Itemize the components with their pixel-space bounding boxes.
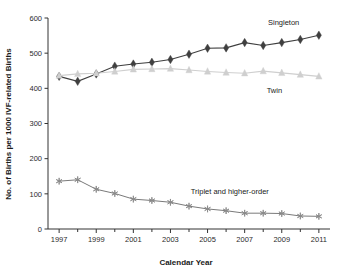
series-annotation-triplet-and-higher-order: Triplet and higher-order [191,187,270,196]
x-tick-label: 2003 [162,235,179,244]
chart-figure: 0100200300400500600 19971999200120032005… [0,0,343,272]
x-tick-label: 1999 [88,235,105,244]
y-tick-label: 500 [29,49,42,58]
y-tick-label: 300 [29,119,42,128]
y-tick-label: 600 [29,14,42,23]
ivf-births-line-chart: 0100200300400500600 19971999200120032005… [0,0,343,272]
x-tick-label: 2011 [311,235,327,244]
x-tick-label: 2005 [199,235,216,244]
x-axis-title: Calendar Year [159,258,212,267]
x-tick-label: 2007 [236,235,253,244]
series-annotation-singleton: Singleton [268,18,299,27]
y-tick-label: 100 [29,190,42,199]
y-tick-label: 0 [38,225,42,234]
y-tick-label: 200 [29,154,42,163]
x-tick-label: 2001 [125,235,142,244]
x-tick-label: 1997 [51,235,68,244]
y-axis-title: No. of Births per 1000 IVF-related Birth… [4,48,13,200]
y-tick-label: 400 [29,84,42,93]
x-tick-label: 2009 [273,235,290,244]
series-annotation-twin: Twin [267,86,282,95]
